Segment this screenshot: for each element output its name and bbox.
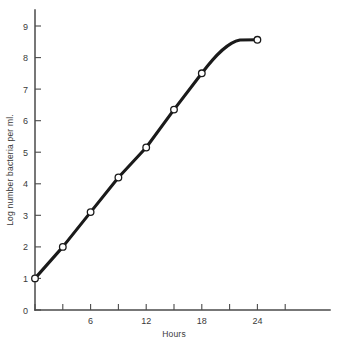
y-tick-label-3: 3	[23, 211, 28, 221]
y-tick-label-9: 9	[23, 22, 28, 32]
y-tick-label-4: 4	[23, 179, 28, 189]
data-point	[143, 144, 150, 151]
data-point	[171, 106, 178, 113]
x-tick-label-24: 24	[252, 316, 262, 326]
data-point	[199, 70, 206, 77]
y-axis-title: Log number bacteria per ml.	[5, 114, 15, 226]
growth-curve-chart: 0 1 2 3 4 5 6 7 8 9 6 12 1	[0, 0, 337, 346]
chart-figure: 0 1 2 3 4 5 6 7 8 9 6 12 1	[0, 0, 337, 346]
y-tick-label-8: 8	[23, 53, 28, 63]
x-tick-label-18: 18	[197, 316, 207, 326]
chart-background	[0, 0, 337, 346]
x-axis-title: Hours	[162, 329, 186, 339]
x-tick-label-6: 6	[88, 316, 93, 326]
y-tick-label-5: 5	[23, 148, 28, 158]
data-point	[32, 275, 39, 282]
y-tick-label-1: 1	[23, 274, 28, 284]
data-point	[87, 209, 94, 216]
y-tick-label-2: 2	[23, 242, 28, 252]
y-tick-label-6: 6	[23, 116, 28, 126]
y-tick-label-0: 0	[23, 306, 28, 316]
data-point	[60, 244, 67, 251]
data-point	[254, 37, 261, 44]
x-tick-label-12: 12	[141, 316, 151, 326]
y-tick-label-7: 7	[23, 85, 28, 95]
data-point	[115, 174, 122, 181]
